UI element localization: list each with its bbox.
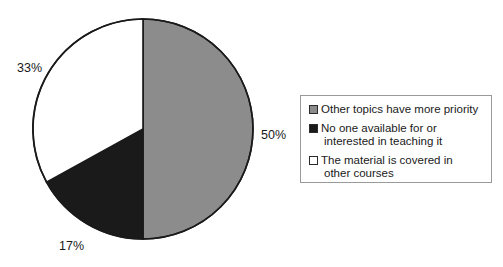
legend-swatch-black-icon — [309, 124, 318, 133]
legend-item-material-covered-elsewhere: The material is covered in other courses — [309, 154, 485, 181]
legend-item-label-line2: interested in teaching it — [321, 135, 442, 149]
legend-item-label-line1: No one available for or — [321, 122, 437, 134]
pie-chart-figure: 50% 17% 33% Other topics have more prior… — [0, 0, 503, 267]
legend: Other topics have more priority No one a… — [300, 95, 492, 183]
legend-item-label: The material is covered in other courses — [321, 154, 453, 181]
pie-value-label-17: 17% — [59, 239, 84, 253]
legend-swatch-white-icon — [309, 156, 318, 165]
pie-slice-other-topics-priority — [143, 19, 253, 239]
legend-item-label-line1: Other topics have more priority — [321, 103, 478, 115]
legend-swatch-gray-icon — [309, 105, 318, 114]
legend-item-label-line1: The material is covered in — [321, 154, 453, 166]
pie-value-label-33: 33% — [17, 61, 42, 75]
legend-item-label: No one available for or interested in te… — [321, 122, 442, 149]
legend-item-no-one-available: No one available for or interested in te… — [309, 122, 485, 149]
legend-item-other-topics-priority: Other topics have more priority — [309, 103, 485, 117]
legend-item-label-line2: other courses — [321, 167, 453, 181]
legend-item-label: Other topics have more priority — [321, 103, 478, 117]
pie-value-label-50: 50% — [261, 128, 286, 142]
